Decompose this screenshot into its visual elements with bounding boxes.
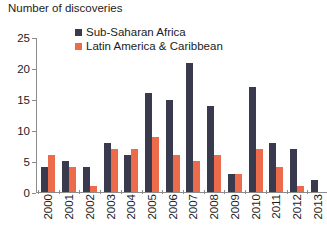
bar-series-container — [37, 38, 327, 192]
y-tick — [32, 38, 36, 39]
y-tick — [32, 131, 36, 132]
x-tick-label: 2010 — [250, 194, 262, 220]
x-tick-label: 2004 — [125, 194, 137, 220]
x-tick-label: 2006 — [167, 194, 179, 220]
x-tick-label: 2002 — [84, 194, 96, 220]
chart-title: Number of discoveries — [8, 1, 122, 15]
bar-latin-america-caribbean — [90, 186, 97, 192]
x-tick — [162, 190, 163, 194]
bar-latin-america-caribbean — [235, 174, 242, 192]
bar-latin-america-caribbean — [111, 149, 118, 192]
x-tick-label: 2009 — [229, 194, 241, 220]
bar-group — [269, 38, 283, 192]
y-tick-label: 20 — [17, 64, 30, 75]
bar-sub-saharan-africa — [311, 180, 318, 192]
bar-latin-america-caribbean — [214, 155, 221, 192]
y-tick-label: 5 — [24, 157, 30, 168]
bar-group — [186, 38, 200, 192]
x-tick — [183, 190, 184, 194]
bar-sub-saharan-africa — [186, 63, 193, 192]
bar-latin-america-caribbean — [69, 167, 76, 192]
y-tick-label: 15 — [17, 95, 30, 106]
bar-group — [62, 38, 76, 192]
x-axis-labels: 2000200120022003200420052006200720082009… — [37, 194, 327, 243]
bar-sub-saharan-africa — [83, 167, 90, 192]
x-tick — [59, 190, 60, 194]
x-tick-label: 2005 — [146, 194, 158, 220]
y-tick — [32, 100, 36, 101]
bar-latin-america-caribbean — [173, 155, 180, 192]
x-tick — [121, 190, 122, 194]
x-tick — [142, 190, 143, 194]
bar-latin-america-caribbean — [297, 186, 304, 192]
x-tick-label: 2000 — [42, 194, 54, 220]
x-tick-label: 2003 — [105, 194, 117, 220]
bar-latin-america-caribbean — [193, 161, 200, 192]
bar-group — [311, 38, 325, 192]
bar-group — [145, 38, 159, 192]
x-tick-label: 2007 — [187, 194, 199, 220]
bar-group — [290, 38, 304, 192]
y-tick-label: 10 — [17, 126, 30, 137]
plot-area: 0510152025 — [36, 38, 327, 193]
x-tick — [100, 190, 101, 194]
y-tick-label: 0 — [24, 188, 30, 199]
y-tick-label: 25 — [17, 33, 30, 44]
x-tick — [204, 190, 205, 194]
x-tick — [307, 190, 308, 194]
x-tick-label: 2011 — [270, 194, 282, 219]
y-tick — [32, 69, 36, 70]
bar-latin-america-caribbean — [276, 167, 283, 192]
x-tick-label: 2008 — [208, 194, 220, 220]
bar-group — [83, 38, 97, 192]
y-tick — [32, 162, 36, 163]
bar-sub-saharan-africa — [41, 167, 48, 192]
bar-latin-america-caribbean — [256, 149, 263, 192]
bar-sub-saharan-africa — [166, 100, 173, 192]
x-tick — [287, 190, 288, 194]
x-tick-label: 2013 — [312, 194, 324, 220]
bar-group — [124, 38, 138, 192]
bar-sub-saharan-africa — [124, 155, 131, 192]
x-tick — [79, 190, 80, 194]
bar-sub-saharan-africa — [145, 93, 152, 192]
bar-sub-saharan-africa — [62, 161, 69, 192]
x-tick — [266, 190, 267, 194]
bar-group — [166, 38, 180, 192]
bar-chart: Number of discoveries Sub-Saharan Africa… — [0, 0, 327, 243]
bar-group — [207, 38, 221, 192]
bar-sub-saharan-africa — [228, 174, 235, 192]
bar-group — [228, 38, 242, 192]
bar-group — [249, 38, 263, 192]
bar-sub-saharan-africa — [269, 143, 276, 192]
x-tick-label: 2001 — [63, 194, 75, 220]
bar-latin-america-caribbean — [131, 149, 138, 192]
x-tick-label: 2012 — [291, 194, 303, 220]
x-tick — [38, 190, 39, 194]
x-tick — [224, 190, 225, 194]
bar-group — [104, 38, 118, 192]
bar-sub-saharan-africa — [249, 87, 256, 192]
legend-swatch-sub-saharan-africa — [75, 29, 82, 36]
bar-sub-saharan-africa — [104, 143, 111, 192]
bar-sub-saharan-africa — [207, 106, 214, 192]
y-tick — [32, 193, 36, 194]
bar-sub-saharan-africa — [290, 149, 297, 192]
bar-latin-america-caribbean — [48, 155, 55, 192]
bar-latin-america-caribbean — [152, 137, 159, 192]
bar-group — [41, 38, 55, 192]
x-tick — [245, 190, 246, 194]
